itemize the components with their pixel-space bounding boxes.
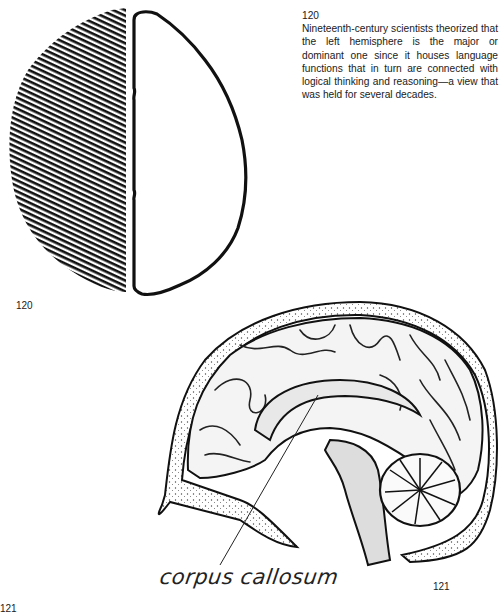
right-hemisphere-outline xyxy=(134,12,246,295)
sagittal-brain-illustration xyxy=(150,298,504,598)
figure-number-121: 121 xyxy=(433,581,450,592)
next-figure-number: 121 xyxy=(0,603,17,614)
cerebellum xyxy=(380,454,460,526)
caption-number: 120 xyxy=(302,9,498,22)
hemispheres-illustration xyxy=(0,0,260,300)
corpus-callosum-annotation: corpus callosum xyxy=(158,565,340,589)
caption-text: Nineteenth-century scientists theorized … xyxy=(302,22,498,101)
figure-caption: 120 Nineteenth-century scientists theori… xyxy=(302,9,498,101)
brainstem xyxy=(325,440,390,565)
left-hemisphere-hatched xyxy=(0,0,130,300)
figure-number-120: 120 xyxy=(16,300,33,311)
